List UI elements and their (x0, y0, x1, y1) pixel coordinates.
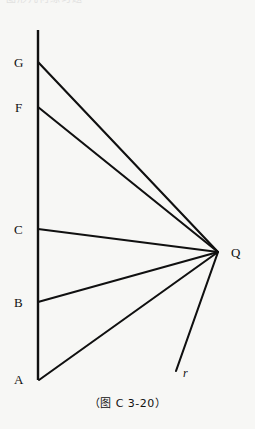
segment-f-to-q (38, 107, 218, 252)
geometry-figure-page: 图形几何练习题 G F C B A Q r （图 C 3-20） (0, 0, 255, 429)
ray-r-line (176, 252, 218, 371)
segment-c-to-q (38, 229, 218, 252)
vertex-label-b: B (14, 296, 23, 309)
segment-a-to-q (39, 252, 218, 380)
segment-g-to-q (38, 62, 218, 252)
vertex-label-g: G (14, 56, 23, 69)
geometry-diagram (0, 0, 255, 429)
vertex-label-q: Q (231, 246, 240, 259)
figure-caption: （图 C 3-20） (0, 394, 255, 410)
vertex-label-f: F (15, 101, 22, 114)
vertex-label-a: A (14, 373, 23, 386)
vertex-label-c: C (14, 223, 23, 236)
segment-b-to-q (38, 252, 218, 302)
ray-label-r: r (183, 367, 188, 379)
